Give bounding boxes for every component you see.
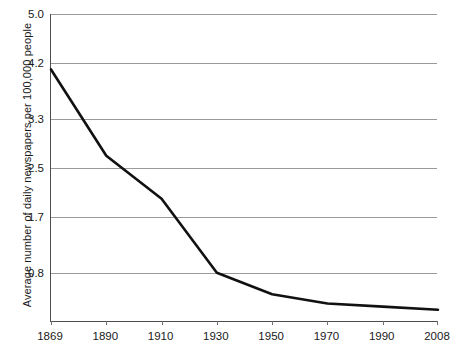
y-axis-title: Average number of daily newspapers per 1… [18,0,36,330]
x-tick-label: 2008 [424,330,450,342]
x-tick-label: 1950 [258,330,284,342]
x-tick-mark [383,321,384,325]
x-tick-mark [437,321,438,325]
x-tick-label: 1890 [92,330,118,342]
x-tick-label: 1990 [369,330,395,342]
series-line-path [51,69,438,309]
x-tick-label: 1910 [148,330,174,342]
x-tick-label: 1970 [314,330,340,342]
series-line-chart [51,14,438,322]
x-tick-mark [327,321,328,325]
x-tick-mark [106,321,107,325]
plot-area [50,14,437,322]
plot-wrapper [50,14,437,322]
x-tick-mark [272,321,273,325]
x-tick-mark [217,321,218,325]
x-tick-mark [162,321,163,325]
chart-container: Average number of daily newspapers per 1… [0,0,451,356]
x-tick-label: 1930 [203,330,229,342]
x-axis-tick-labels: 18691890191019301950197019902008 [0,330,451,346]
x-tick-label: 1869 [37,330,63,342]
x-tick-mark [51,321,52,325]
